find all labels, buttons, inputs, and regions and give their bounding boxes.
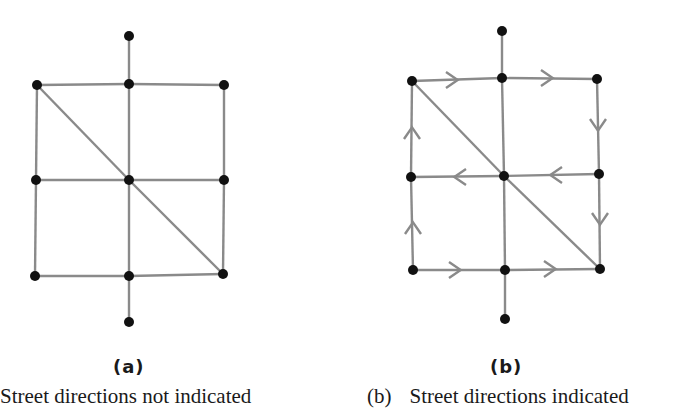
intersection-node-tm [497,73,507,83]
street-edge [129,180,223,274]
intersection-node-ml [31,175,41,185]
intersection-node-bl [408,265,418,275]
caption-b-text: Street directions indicated [410,384,629,408]
intersection-node-c [124,175,134,185]
street-network-figure: (a) (b) Street directions not indicated … [0,0,677,415]
intersection-node-top [497,26,507,36]
intersection-node-mr [219,175,229,185]
street-edge [223,180,224,274]
intersection-node-br [218,269,228,279]
street-edge [37,84,129,85]
intersection-node-bl [30,271,40,281]
street-edge [35,180,36,276]
graph-panel-b [404,26,608,324]
caption-b-marker: (b) [367,384,392,408]
caption-b: (b)Street directions indicated [367,384,629,409]
intersection-node-bm [500,265,510,275]
street-edge [597,79,599,174]
intersection-node-bottom [124,317,134,327]
street-edge [129,274,223,276]
intersection-node-top [124,31,134,41]
street-edge [36,85,37,180]
intersection-node-tm [124,79,134,89]
intersection-node-bottom [500,314,510,324]
graph-panel-a [30,31,229,327]
intersection-node-tr [592,74,602,84]
street-edge [37,85,129,180]
street-edge [504,176,600,269]
intersection-node-tr [219,80,229,90]
street-edge [504,176,505,270]
street-edge [412,81,504,176]
panel-label-b: (b) [490,356,522,377]
panel-label-a: (a) [113,356,145,377]
caption-a: Street directions not indicated [0,384,251,409]
caption-a-text: Street directions not indicated [0,384,251,408]
intersection-node-br [595,264,605,274]
intersection-node-mr [594,169,604,179]
intersection-node-ml [406,172,416,182]
street-edge [502,78,504,176]
intersection-node-bm [124,271,134,281]
intersection-node-tl [32,80,42,90]
street-graphs [0,0,677,415]
intersection-node-c [499,171,509,181]
street-edge [129,84,224,85]
intersection-node-tl [407,76,417,86]
